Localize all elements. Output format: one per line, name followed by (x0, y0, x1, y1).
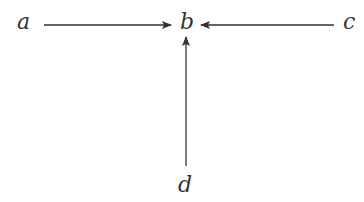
diagram-canvas: a b c d (0, 0, 364, 202)
node-c: c (343, 11, 355, 33)
node-d: d (178, 174, 192, 196)
node-b: b (180, 11, 194, 33)
node-a: a (17, 11, 30, 33)
